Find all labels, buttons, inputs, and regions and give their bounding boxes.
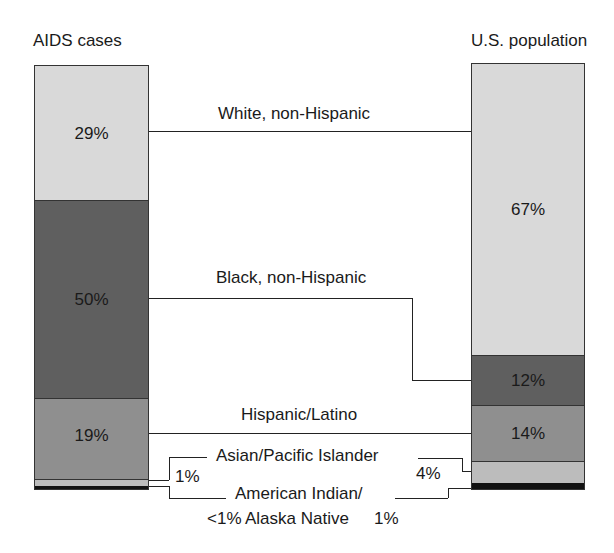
asian-left-h2 (169, 457, 207, 458)
native-left-h2 (169, 498, 226, 499)
asian-category-label: Asian/Pacific Islander (216, 446, 379, 466)
asian-right-h2 (462, 471, 471, 472)
white-category-label: White, non-Hispanic (218, 104, 370, 124)
aids-hispanic-segment: 19% (35, 399, 148, 480)
native-left-v (169, 486, 170, 498)
black-connector-h1 (149, 298, 412, 299)
pop-hispanic-segment: 14% (472, 406, 584, 462)
aids-white-pct: 29% (35, 124, 148, 144)
aids-native-segment (35, 486, 148, 489)
pop-native-segment (472, 483, 584, 489)
native-right-h1 (395, 498, 448, 499)
pop-black-pct: 12% (472, 371, 584, 391)
pop-white-segment: 67% (472, 64, 584, 356)
aids-black-pct: 50% (35, 290, 148, 310)
pop-asian-segment (472, 462, 584, 483)
hispanic-connector-line (149, 433, 471, 434)
black-connector-v (412, 298, 413, 380)
pop-white-pct: 67% (472, 200, 584, 220)
black-category-label: Black, non-Hispanic (216, 268, 366, 288)
aids-asian-pct: 1% (175, 467, 200, 487)
pop-hispanic-pct: 14% (472, 424, 584, 444)
asian-right-h1 (418, 458, 462, 459)
aids-black-segment: 50% (35, 201, 148, 399)
us-population-bar: 67% 12% 14% (471, 63, 585, 490)
right-column-title: U.S. population (471, 31, 587, 51)
native-category-label-line2: Alaska Native (245, 509, 349, 529)
native-left-h1 (149, 486, 169, 487)
left-column-title: AIDS cases (33, 31, 122, 51)
aids-cases-bar: 29% 50% 19% (34, 65, 149, 490)
pop-asian-pct: 4% (416, 464, 441, 484)
asian-left-h1 (149, 480, 169, 481)
native-category-label-line1: American Indian/ (235, 484, 363, 504)
asian-right-v (462, 458, 463, 471)
white-connector-line (149, 131, 471, 132)
aids-white-segment: 29% (35, 66, 148, 201)
pop-black-segment: 12% (472, 356, 584, 406)
aids-hispanic-pct: 19% (35, 426, 148, 446)
aids-native-pct: <1% (207, 509, 242, 529)
native-right-v (448, 488, 449, 498)
asian-left-v (169, 457, 170, 480)
hispanic-category-label: Hispanic/Latino (241, 405, 357, 425)
black-connector-h2 (412, 380, 471, 381)
native-right-h2 (448, 488, 471, 489)
pop-native-pct: 1% (374, 509, 399, 529)
